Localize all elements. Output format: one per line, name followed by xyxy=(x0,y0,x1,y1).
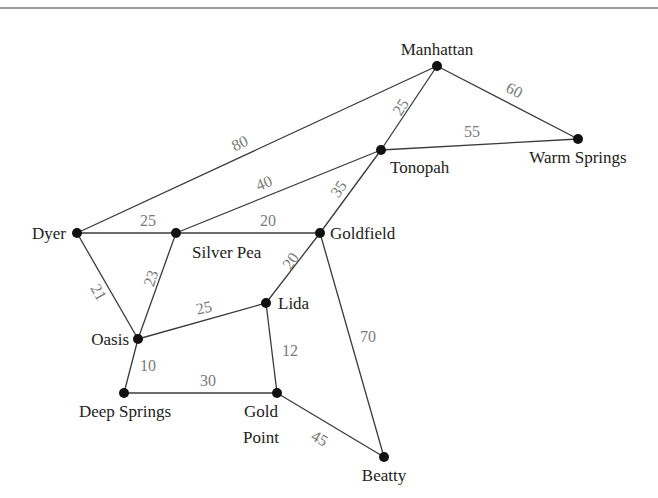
label-manhattan: Manhattan xyxy=(401,40,474,59)
weight-dyer-manhattan: 80 xyxy=(229,132,251,154)
weight-gold-point-beatty: 45 xyxy=(309,427,331,450)
node-gold-point xyxy=(272,388,282,398)
node-deep-springs xyxy=(119,388,129,398)
label-silver-pea: Silver Pea xyxy=(192,243,262,262)
weight-oasis-lida: 25 xyxy=(194,298,213,318)
node-silver-pea xyxy=(171,228,181,238)
edge-dyer-oasis xyxy=(77,233,138,339)
node-dyer xyxy=(72,228,82,238)
edges xyxy=(77,66,578,457)
weight-goldfield-beatty: 70 xyxy=(360,328,376,345)
edge-lida-gold-point xyxy=(266,303,277,393)
weight-silver-pea-goldfield: 20 xyxy=(260,212,276,229)
label-warm-springs: Warm Springs xyxy=(529,148,626,167)
node-manhattan xyxy=(432,61,442,71)
node-oasis xyxy=(133,334,143,344)
label-beatty: Beatty xyxy=(362,466,407,485)
weight-manhattan-tonopah: 25 xyxy=(389,96,412,119)
label-dyer: Dyer xyxy=(32,224,66,243)
edge-goldfield-beatty xyxy=(320,233,384,457)
weight-oasis-deep-springs: 10 xyxy=(140,357,156,374)
weight-dyer-silver-pea: 25 xyxy=(140,212,156,229)
node-goldfield xyxy=(315,228,325,238)
label-oasis: Oasis xyxy=(91,330,129,349)
weight-deep-springs-gold-point: 30 xyxy=(200,372,216,389)
node-lida xyxy=(261,298,271,308)
label-lida: Lida xyxy=(278,294,310,313)
weight-tonopah-warm-springs: 55 xyxy=(464,123,480,140)
edge-weights: 80 25 60 55 40 35 25 20 21 23 20 25 70 1… xyxy=(87,79,525,450)
label-tonopah: Tonopah xyxy=(390,158,450,177)
road-network-diagram: 80 25 60 55 40 35 25 20 21 23 20 25 70 1… xyxy=(0,0,658,498)
label-gold-point-line2: Point xyxy=(243,428,279,447)
weight-lida-gold-point: 12 xyxy=(282,342,298,359)
node-warm-springs xyxy=(573,134,583,144)
label-gold-point-line1: Gold xyxy=(244,402,279,421)
edge-manhattan-warm-springs xyxy=(437,66,578,139)
node-tonopah xyxy=(376,145,386,155)
label-deep-springs: Deep Springs xyxy=(79,402,171,421)
weight-silver-pea-tonopah: 40 xyxy=(253,172,274,194)
label-goldfield: Goldfield xyxy=(330,224,396,243)
weight-silver-pea-oasis: 23 xyxy=(140,268,161,288)
node-beatty xyxy=(379,452,389,462)
weight-manhattan-warm-springs: 60 xyxy=(504,79,526,101)
weight-goldfield-lida: 20 xyxy=(279,249,302,272)
node-labels: Manhattan Tonopah Warm Springs Dyer Silv… xyxy=(32,40,627,485)
